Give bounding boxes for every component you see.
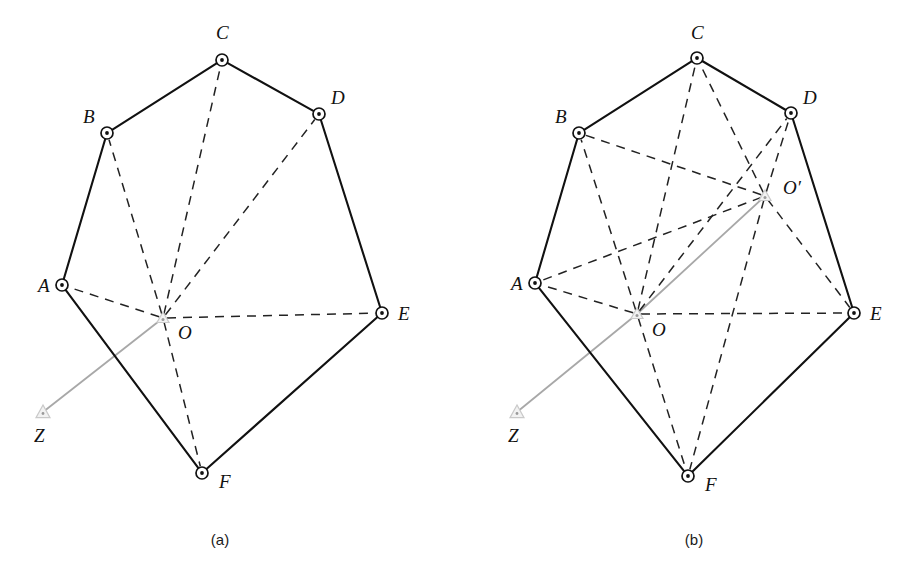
anchor-dot-icon bbox=[516, 412, 519, 415]
vertex-marker-A[interactable] bbox=[529, 277, 541, 289]
center-dot-icon bbox=[764, 196, 767, 199]
vertex-marker-C[interactable] bbox=[216, 54, 228, 66]
vertex-marker-E[interactable] bbox=[848, 307, 860, 319]
vertex-label-A: A bbox=[36, 275, 50, 296]
vertex-marker-C[interactable] bbox=[691, 52, 703, 64]
vertex-marker-F[interactable] bbox=[682, 470, 694, 482]
vertex-dot-icon bbox=[200, 471, 204, 475]
vertex-dot-icon bbox=[317, 112, 321, 116]
vertex-dot-icon bbox=[105, 131, 109, 135]
vertex-dot-icon bbox=[852, 311, 856, 315]
vertex-dot-icon bbox=[789, 111, 793, 115]
vertex-marker-D[interactable] bbox=[313, 108, 325, 120]
anchor-label-Z: Z bbox=[508, 425, 519, 446]
vertex-label-B: B bbox=[83, 106, 95, 127]
vertex-dot-icon bbox=[220, 58, 224, 62]
vertex-label-A: A bbox=[509, 273, 523, 294]
vertex-label-E: E bbox=[869, 303, 882, 324]
vertex-marker-F[interactable] bbox=[196, 467, 208, 479]
center-dot-icon bbox=[636, 314, 639, 317]
vertex-label-D: D bbox=[330, 87, 345, 108]
vertex-marker-B[interactable] bbox=[101, 127, 113, 139]
anchor-label-Z: Z bbox=[34, 425, 45, 446]
vertex-dot-icon bbox=[577, 131, 581, 135]
vertex-dot-icon bbox=[380, 311, 384, 315]
vertex-label-C: C bbox=[691, 22, 704, 43]
vertex-dot-icon bbox=[695, 56, 699, 60]
vertex-dot-icon bbox=[533, 281, 537, 285]
anchor-dot-icon bbox=[42, 412, 45, 415]
center-dot-icon bbox=[162, 318, 165, 321]
vertex-label-F: F bbox=[218, 471, 231, 492]
center-label-Oprime: O′ bbox=[783, 177, 802, 198]
vertex-label-D: D bbox=[802, 87, 817, 108]
vertex-label-C: C bbox=[216, 22, 229, 43]
vertex-marker-E[interactable] bbox=[376, 307, 388, 319]
panel-caption-b: (b) bbox=[685, 531, 703, 548]
vertex-label-E: E bbox=[397, 303, 410, 324]
geometry-figure: OABCDEFZ(a)OO′ABCDEFZ(b) bbox=[0, 0, 924, 571]
vertex-dot-icon bbox=[60, 283, 64, 287]
vertex-label-F: F bbox=[704, 474, 717, 495]
vertex-marker-B[interactable] bbox=[573, 127, 585, 139]
vertex-dot-icon bbox=[686, 474, 690, 478]
center-label-O: O bbox=[652, 319, 666, 340]
center-label-O: O bbox=[178, 322, 192, 343]
vertex-marker-D[interactable] bbox=[785, 107, 797, 119]
panel-caption-a: (a) bbox=[211, 531, 229, 548]
vertex-label-B: B bbox=[555, 106, 567, 127]
vertex-marker-A[interactable] bbox=[56, 279, 68, 291]
figure-background bbox=[0, 0, 924, 571]
